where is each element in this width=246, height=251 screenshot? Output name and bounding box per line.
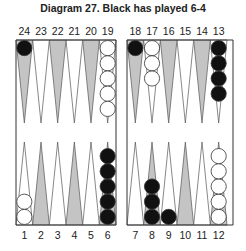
white-checker — [100, 56, 115, 71]
point-label-5: 5 — [88, 229, 94, 241]
point-label-1: 1 — [21, 229, 27, 241]
black-checker — [100, 194, 115, 209]
point-label-22: 22 — [52, 25, 64, 37]
point-2 — [33, 142, 50, 225]
white-checker — [144, 41, 159, 56]
black-checker — [17, 41, 32, 56]
point-21 — [66, 40, 83, 123]
point-label-3: 3 — [55, 229, 61, 241]
point-label-20: 20 — [85, 25, 97, 37]
white-checker — [100, 86, 115, 101]
black-checker — [144, 194, 159, 209]
point-labels: 242322212019181716151413123456789101112 — [18, 25, 224, 241]
point-label-19: 19 — [102, 25, 114, 37]
black-checker — [100, 209, 115, 224]
point-7 — [127, 142, 144, 225]
point-label-2: 2 — [38, 229, 44, 241]
point-label-17: 17 — [146, 25, 158, 37]
black-checker — [211, 56, 226, 71]
point-14 — [194, 40, 211, 123]
point-label-12: 12 — [213, 229, 225, 241]
point-3 — [49, 142, 66, 225]
white-checker — [100, 71, 115, 86]
points-layer — [16, 40, 227, 225]
black-checker — [211, 86, 226, 101]
black-checker — [144, 179, 159, 194]
point-15 — [177, 40, 194, 123]
black-checker — [144, 209, 159, 224]
black-checker — [128, 41, 143, 56]
point-16 — [160, 40, 177, 123]
point-label-14: 14 — [196, 25, 208, 37]
white-checker — [211, 149, 226, 164]
point-label-9: 9 — [166, 229, 172, 241]
point-label-8: 8 — [149, 229, 155, 241]
white-checker — [211, 164, 226, 179]
black-checker — [211, 41, 226, 56]
black-checker — [161, 209, 176, 224]
point-11 — [194, 142, 211, 225]
point-22 — [49, 40, 66, 123]
white-checker — [17, 194, 32, 209]
point-label-6: 6 — [105, 229, 111, 241]
white-checker — [211, 209, 226, 224]
white-checker — [17, 209, 32, 224]
point-label-11: 11 — [197, 229, 208, 241]
white-checker — [211, 179, 226, 194]
point-label-7: 7 — [132, 229, 138, 241]
point-20 — [83, 40, 100, 123]
point-label-23: 23 — [35, 25, 47, 37]
white-checker — [144, 56, 159, 71]
point-23 — [33, 40, 50, 123]
point-label-10: 10 — [179, 229, 191, 241]
point-label-13: 13 — [213, 25, 225, 37]
black-checker — [100, 164, 115, 179]
point-label-16: 16 — [163, 25, 175, 37]
point-label-18: 18 — [129, 25, 141, 37]
point-4 — [66, 142, 83, 225]
black-checker — [211, 71, 226, 86]
point-label-21: 21 — [68, 25, 80, 37]
white-checker — [144, 71, 159, 86]
white-checker — [100, 41, 115, 56]
white-checker — [100, 101, 115, 116]
backgammon-board: 242322212019181716151413123456789101112 — [0, 0, 246, 251]
white-checker — [211, 194, 226, 209]
checkers-layer — [17, 41, 227, 225]
point-label-24: 24 — [18, 25, 30, 37]
black-checker — [100, 149, 115, 164]
point-10 — [177, 142, 194, 225]
point-label-4: 4 — [71, 229, 77, 241]
point-5 — [83, 142, 100, 225]
black-checker — [100, 179, 115, 194]
point-label-15: 15 — [179, 25, 191, 37]
